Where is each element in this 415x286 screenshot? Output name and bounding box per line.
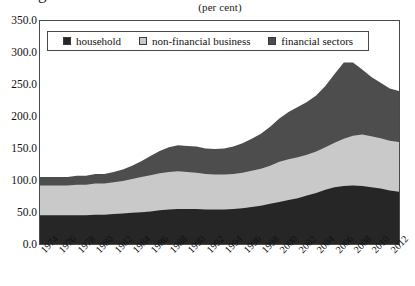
x-tick-label: 1994 — [223, 234, 244, 255]
x-tick-label: 2004 — [315, 234, 336, 255]
x-tick-label: 1996 — [242, 234, 263, 255]
x-tick-label: 1978 — [76, 234, 97, 255]
x-tick-label: 1998 — [260, 234, 281, 255]
x-tick-label: 2012 — [389, 234, 410, 255]
x-tick-label: 1986 — [149, 234, 170, 255]
x-tick-label: 2008 — [352, 234, 373, 255]
x-axis-labels: 1974197619781980198219841986198819901992… — [0, 0, 415, 286]
x-tick-label: 1982 — [113, 234, 134, 255]
x-tick-label: 1974 — [39, 234, 60, 255]
x-tick-label: 2000 — [278, 234, 299, 255]
x-tick-label: 1992 — [205, 234, 226, 255]
x-tick-label: 1990 — [186, 234, 207, 255]
chart-figure: g (per cent) 350.0 300.0 250.0 200.0 150… — [0, 0, 415, 286]
x-tick-label: 2002 — [297, 234, 318, 255]
x-tick-label: 2006 — [334, 234, 355, 255]
x-tick-label: 1976 — [57, 234, 78, 255]
x-tick-label: 1988 — [168, 234, 189, 255]
x-tick-label: 2010 — [370, 234, 391, 255]
x-tick-label: 1984 — [131, 234, 152, 255]
x-tick-label: 1980 — [94, 234, 115, 255]
